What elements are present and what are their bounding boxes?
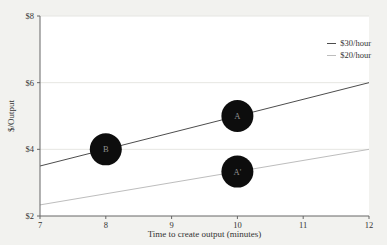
- legend-entry-30hr: $30/hour: [327, 37, 371, 49]
- legend-line-swatch-icon: [327, 43, 336, 44]
- y-tick-label: $2: [26, 211, 35, 221]
- y-axis-title: $/Output: [6, 100, 16, 132]
- legend-entry-20hr: $20/hour: [327, 49, 371, 61]
- y-tick-label: $8: [26, 11, 35, 21]
- legend-label: $20/hour: [340, 50, 371, 60]
- plot-area: [40, 16, 369, 216]
- legend-label: $30/hour: [340, 38, 371, 48]
- y-tick-label: $4: [26, 144, 35, 154]
- point-label-B: B: [103, 144, 109, 154]
- x-axis-title: Time to create output (minutes): [40, 229, 369, 239]
- legend: $30/hour $20/hour: [327, 37, 371, 61]
- legend-line-swatch-icon: [327, 55, 336, 56]
- chart-figure: 789101112$2$4$6$8BAA' $/Output Time to c…: [0, 0, 387, 245]
- point-label-A: A: [234, 111, 241, 121]
- y-tick-label: $6: [26, 78, 35, 88]
- point-label-A': A': [234, 167, 242, 177]
